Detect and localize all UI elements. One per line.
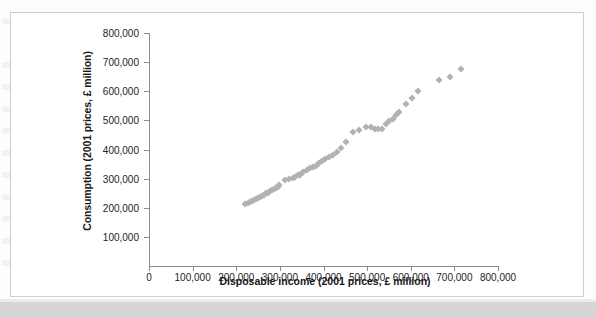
x-tick-mark bbox=[324, 266, 325, 271]
y-tick-mark bbox=[144, 237, 149, 238]
data-point bbox=[338, 144, 345, 151]
x-axis-title: Disposable income (2001 prices, £ millio… bbox=[149, 275, 501, 287]
y-tick-mark bbox=[144, 150, 149, 151]
figure-card: 100,000200,000300,000400,000500,000600,0… bbox=[10, 12, 584, 297]
y-tick-mark bbox=[144, 33, 149, 34]
page-band-gray bbox=[0, 302, 596, 318]
x-tick-mark bbox=[149, 266, 150, 271]
x-tick-mark bbox=[367, 266, 368, 271]
scatter-plot: 100,000200,000300,000400,000500,000600,0… bbox=[11, 13, 585, 298]
y-tick-mark bbox=[144, 208, 149, 209]
data-point bbox=[355, 127, 362, 134]
data-point bbox=[343, 138, 350, 145]
data-point bbox=[402, 101, 409, 108]
y-axis-line bbox=[149, 33, 150, 267]
x-tick-mark bbox=[498, 266, 499, 271]
data-point bbox=[408, 94, 415, 101]
y-tick-mark bbox=[144, 179, 149, 180]
data-point bbox=[396, 108, 403, 115]
y-axis-title: Consumption (2001 prices, £ million) bbox=[81, 31, 93, 251]
data-point bbox=[435, 77, 442, 84]
y-tick-mark bbox=[144, 120, 149, 121]
x-tick-mark bbox=[454, 266, 455, 271]
data-point bbox=[414, 87, 421, 94]
y-tick-mark bbox=[144, 62, 149, 63]
data-point bbox=[457, 65, 464, 72]
data-point bbox=[446, 73, 453, 80]
x-tick-mark bbox=[411, 266, 412, 271]
x-tick-mark bbox=[193, 266, 194, 271]
x-tick-mark bbox=[236, 266, 237, 271]
x-tick-mark bbox=[280, 266, 281, 271]
y-tick-mark bbox=[144, 91, 149, 92]
